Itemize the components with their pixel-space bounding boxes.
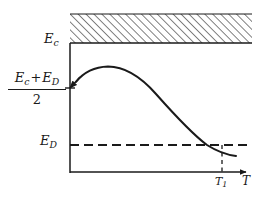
fraction-bar bbox=[8, 89, 66, 90]
fermi-curve-start-arrow bbox=[70, 77, 80, 88]
t1-tick-label: T1 bbox=[215, 176, 227, 189]
half-sum-level-label: Ec+ED 2 bbox=[8, 70, 66, 107]
conduction-band-hatched-region bbox=[70, 14, 252, 43]
energy-level-diagram: Ec ED Ec+ED 2 T1 T bbox=[0, 0, 266, 199]
temperature-axis-label: T bbox=[242, 175, 250, 187]
donor-level-label: ED bbox=[40, 134, 57, 149]
fermi-level-curve bbox=[76, 67, 236, 156]
conduction-band-edge-label: Ec bbox=[44, 32, 59, 47]
fraction-denominator: 2 bbox=[8, 92, 66, 107]
fraction-numerator: Ec+ED bbox=[8, 70, 66, 88]
